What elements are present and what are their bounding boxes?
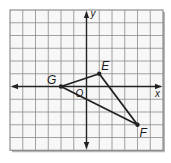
vertex-label-f: F — [140, 126, 148, 140]
y-axis-label: y — [90, 8, 97, 19]
coordinate-grid: GEFyxO — [0, 0, 171, 163]
vertex-label-e: E — [101, 59, 110, 73]
vertex-label-g: G — [47, 73, 56, 87]
vertex-point-g — [59, 84, 63, 88]
coordinate-plane-figure: GEFyxO — [0, 0, 171, 163]
x-axis-label: x — [154, 88, 161, 99]
origin-label: O — [76, 88, 84, 99]
